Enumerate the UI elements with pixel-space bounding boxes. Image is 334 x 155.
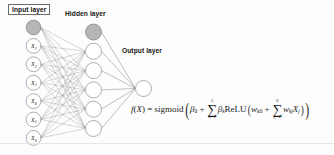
hidden-layer-nodes	[86, 24, 102, 137]
edge	[41, 46, 86, 90]
output-formula: f(X) = sigmoid(β0 + 5∑k=1βkReLU(wk0 + 6∑…	[131, 100, 310, 119]
edge	[41, 109, 86, 138]
edge	[102, 32, 136, 89]
formula-inner-activation: ReLU	[225, 104, 247, 114]
node-label-subscript: 5	[35, 119, 37, 124]
formula-outer-activation: sigmoid	[155, 104, 184, 114]
outer-sum-upper-limit: 5	[207, 99, 217, 104]
node-label-subscript: 4	[35, 101, 37, 106]
edge	[102, 51, 136, 88]
formula-inner-bias-sub: k0	[257, 108, 262, 114]
edge	[41, 28, 86, 52]
edges-input-to-hidden	[41, 28, 86, 138]
output-layer-label: Output layer	[122, 47, 162, 54]
output-layer-nodes	[136, 81, 152, 97]
edge	[41, 83, 86, 129]
edge	[41, 51, 86, 138]
edge	[41, 71, 86, 138]
input-layer-nodes: X1X2X3X4X5X6	[26, 20, 41, 145]
node-label-subscript: 1	[35, 46, 37, 51]
inner-sum-lower-limit: j=1	[272, 115, 282, 120]
edge	[41, 120, 86, 129]
edge	[102, 71, 136, 89]
edge	[41, 64, 86, 70]
outer-sum-lower-limit: k=1	[207, 115, 217, 120]
inner-sum-upper-limit: 6	[272, 99, 282, 104]
neural-network-figure: X1X2X3X4X5X6 Input layer Hidden layer Ou…	[0, 0, 334, 155]
edge	[41, 109, 86, 119]
formula-plus-inner: +	[265, 104, 270, 114]
edge	[41, 51, 86, 64]
formula-inner-var-sub: j	[298, 108, 300, 114]
hidden-node-1	[86, 43, 102, 59]
network-graphic: X1X2X3X4X5X6	[0, 0, 334, 155]
edge	[41, 46, 86, 51]
page-rule-divider	[0, 143, 334, 144]
hidden-bias-node	[86, 24, 102, 40]
hidden-node-3	[86, 82, 102, 98]
edge	[41, 129, 86, 138]
input-bias-node	[26, 20, 41, 35]
hidden-node-4	[86, 101, 102, 117]
hidden-node-5	[86, 121, 102, 137]
edge	[41, 51, 86, 119]
hidden-layer-label: Hidden layer	[65, 10, 106, 17]
node-label-subscript: 3	[35, 82, 37, 87]
edge	[41, 90, 86, 101]
output-node	[136, 81, 152, 97]
formula-equals: =	[147, 104, 152, 114]
formula-plus-outer: +	[199, 104, 204, 114]
edge	[41, 90, 86, 138]
node-label-subscript: 6	[35, 138, 37, 143]
hidden-node-2	[86, 63, 102, 79]
inner-summation: 6∑j=1	[272, 104, 282, 115]
edge	[102, 89, 136, 90]
formula-outer-bias-sub: 0	[194, 108, 197, 114]
node-label-subscript: 2	[35, 64, 37, 69]
edge	[41, 83, 86, 90]
outer-summation: 5∑k=1	[207, 104, 217, 115]
edge	[41, 46, 86, 109]
input-layer-label: Input layer	[8, 4, 50, 16]
